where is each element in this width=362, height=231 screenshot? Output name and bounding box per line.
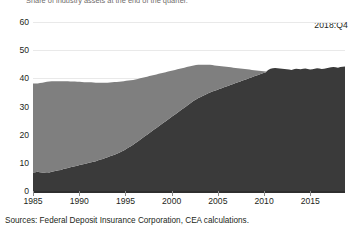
- plot-area: [33, 22, 345, 191]
- x-tick-label-1990: 1990: [59, 196, 99, 206]
- chart-subtitle: Share of industry assets at the end of t…: [26, 0, 326, 5]
- y-tick-label-30: 30: [3, 103, 29, 112]
- x-tick-label-2005: 2005: [198, 196, 238, 206]
- x-tick-label-2010: 2010: [244, 196, 284, 206]
- y-tick-label-20: 20: [3, 131, 29, 140]
- x-tick-label-1995: 1995: [105, 196, 145, 206]
- x-tick-label-2015: 2015: [290, 196, 330, 206]
- y-tick-label-60: 60: [3, 18, 29, 27]
- y-tick-label-40: 40: [3, 74, 29, 83]
- y-tick-label-10: 10: [3, 159, 29, 168]
- chart-subtitle-text: Share of industry assets at the end of t…: [26, 0, 326, 5]
- stacked-area-series: [33, 22, 345, 191]
- x-tick-label-1985: 1985: [13, 196, 53, 206]
- source-note: Sources: Federal Deposit Insurance Corpo…: [5, 215, 249, 226]
- y-tick-label-0: 0: [3, 187, 29, 196]
- chart-figure: Share of industry assets at the end of t…: [0, 0, 362, 231]
- x-tick-label-2000: 2000: [152, 196, 192, 206]
- y-tick-label-50: 50: [3, 46, 29, 55]
